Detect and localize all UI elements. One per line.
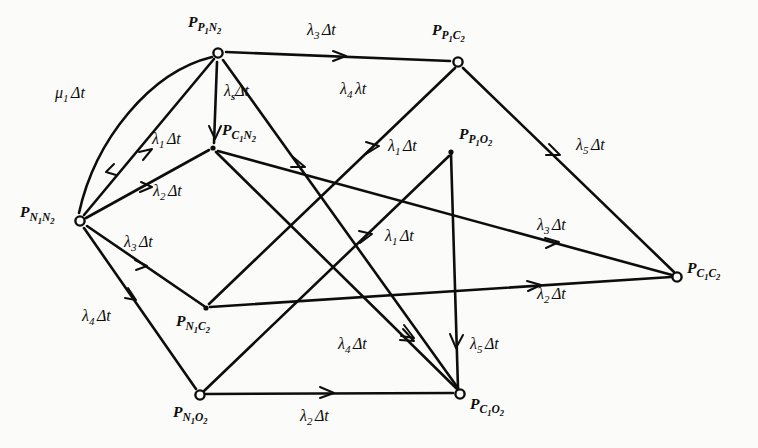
edge-ls-p1n2-c1n2-line <box>214 62 217 143</box>
node-label-C1O2: PC1O2 <box>470 396 504 417</box>
edge-label-l1-n1c2-p1c2: λ1Δt <box>388 138 417 157</box>
edge-mu1-arrow <box>106 164 116 175</box>
node-label-P1N2: PP1N2 <box>188 14 221 35</box>
edge-label-l1-n1o2-p1o2: λ1Δt <box>385 228 414 247</box>
node-label-P1C2: PP1C2 <box>432 22 465 43</box>
edge-label-l5-p1o2-c1o2: λ5Δt <box>470 336 499 355</box>
node-label-N1N2: PN1N2 <box>20 204 55 225</box>
node-label-N1O2: PN1O2 <box>173 404 208 425</box>
edge-label-l3-c1n2-c1c2: λ3Δt <box>537 217 566 236</box>
node-marker-N1N2[interactable] <box>75 216 84 225</box>
node-marker-P1O2[interactable] <box>448 149 453 154</box>
edge-label-l3-n1n2-n1c2: λ3Δt <box>124 234 153 253</box>
edge-label-l4-p1n2-c1o2: λ4λt <box>340 81 366 100</box>
edge-l5-p1o2-c1o2-line <box>451 154 458 388</box>
edge-label-l4-c1n2-c1o2: λ4Δt <box>338 336 367 355</box>
node-label-C1N2: PC1N2 <box>222 122 256 143</box>
node-label-N1C2: PN1C2 <box>176 313 210 334</box>
edge-l1-n1n2-p1n2-line <box>84 59 214 215</box>
edge-label-l2-n1o2-c1o2: λ2Δt <box>300 408 329 427</box>
edge-label-l2-n1n2-c1n2: λ2Δt <box>153 183 182 202</box>
edge-l5-p1c2-c1c2-line <box>463 68 674 272</box>
node-label-P1O2: PP1O2 <box>459 126 492 147</box>
edge-l3-c1n2-c1c2-line <box>218 151 672 275</box>
diagram-canvas: PP1N2 PP1C2 PC1N2 PP1O2 PN1N2 PC1C2 PN1C… <box>0 0 758 448</box>
node-label-C1C2: PC1C2 <box>687 260 720 281</box>
edge-label-l2-n1c2-c1c2: λ2Δt <box>537 286 566 305</box>
edge-l2-n1c2-c1c2-line <box>210 277 671 307</box>
node-marker-P1N2[interactable] <box>213 48 222 57</box>
edge-label-l5-p1c2-c1c2: λ5Δt <box>576 137 605 156</box>
edge-l1-n1n2-p1n2-arrow <box>139 149 152 160</box>
edge-label-mu1: μ1Δt <box>55 85 85 104</box>
node-marker-N1C2[interactable] <box>203 305 208 310</box>
edge-label-l4-n1n2-n1o2: λ4Δt <box>82 308 111 327</box>
node-marker-P1C2[interactable] <box>453 57 462 66</box>
edge-l4-c1n2-c1o2-line <box>216 152 457 389</box>
edge-label-l3-p1n2-p1c2: λ3Δt <box>307 22 336 41</box>
node-marker-C1O2[interactable] <box>455 389 464 398</box>
edge-group <box>79 51 674 398</box>
node-marker-C1C2[interactable] <box>672 272 681 281</box>
node-marker-C1N2[interactable] <box>210 145 215 150</box>
edge-label-ls-p1n2-c1n2: λsΔt <box>224 83 249 102</box>
graph-svg <box>0 0 758 448</box>
node-marker-N1O2[interactable] <box>195 390 204 399</box>
edge-label-l1-n1n2-p1n2: λ1Δt <box>152 131 181 150</box>
